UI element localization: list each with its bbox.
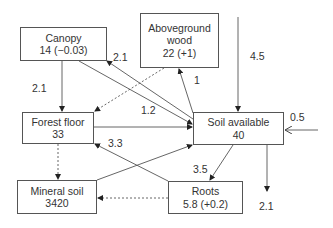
node-wood-name2: wood [167, 34, 192, 47]
arrow-soil-wood [179, 69, 193, 113]
node-mineral-soil-value: 3420 [45, 197, 68, 210]
arrow-soil-roots [210, 145, 233, 180]
node-roots-value: 5.8 (+0.2) [183, 198, 228, 211]
node-canopy: Canopy 14 (−0.03) [20, 27, 107, 61]
node-forest-floor-value: 33 [52, 128, 64, 141]
flow-label-canopy-forest-floor: 2.1 [32, 82, 47, 94]
node-canopy-value: 14 (−0.03) [39, 44, 87, 57]
arrow-roots-forest-floor [95, 144, 168, 181]
flow-label-input-right: 0.5 [290, 111, 305, 123]
node-mineral-soil: Mineral soil 3420 [17, 180, 97, 214]
flow-label-soil-roots: 3.5 [193, 163, 208, 175]
arrow-canopy-soil [79, 61, 192, 124]
node-mineral-soil-name: Mineral soil [30, 185, 83, 198]
node-roots-name: Roots [192, 185, 219, 198]
node-soil-available: Soil available 40 [193, 112, 284, 145]
node-wood-value: 22 (+1) [163, 47, 197, 60]
flow-label-soil-wood: 1 [194, 74, 200, 86]
arrow-mineral-soil-available [97, 145, 192, 180]
flow-label-forest-floor-soil: 1.2 [141, 104, 156, 116]
node-wood-name: Aboveground [148, 22, 210, 35]
node-soil-available-name: Soil available [208, 116, 270, 129]
flow-label-roots-forest-floor: 3.3 [108, 137, 123, 149]
flow-label-soil-canopy: 2.1 [113, 51, 128, 63]
flow-label-input-top: 4.5 [250, 50, 265, 62]
node-forest-floor-name: Forest floor [31, 116, 84, 129]
node-canopy-name: Canopy [45, 32, 81, 45]
node-roots: Roots 5.8 (+0.2) [168, 181, 243, 214]
flow-label-output-bottom: 2.1 [259, 200, 274, 212]
node-forest-floor: Forest floor 33 [22, 112, 94, 144]
node-aboveground-wood: Aboveground wood 22 (+1) [140, 13, 219, 68]
node-soil-available-value: 40 [233, 129, 245, 142]
